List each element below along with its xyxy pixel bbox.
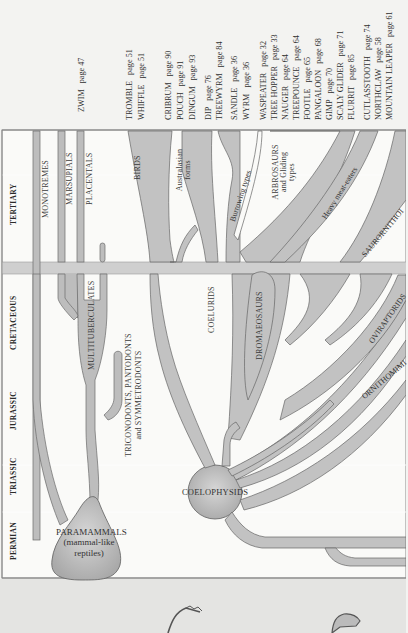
species-ref-gimp[interactable]: GIMPpage 70 (326, 68, 334, 120)
species-name: TREEPOUNCE (292, 67, 301, 120)
species-page: page 74 (363, 24, 372, 50)
species-name: SANDLE (230, 88, 239, 120)
species-name: FLURRIT (347, 86, 356, 120)
species-page: page 36 (242, 62, 251, 88)
species-ref-footle[interactable]: FOOTLEpage 65 (304, 57, 312, 120)
species-ref-dip[interactable]: DIPpage 76 (205, 75, 213, 120)
label-dromaeosaurs: DROMAEOSAURS (256, 291, 264, 360)
species-ref-tree-hopper[interactable]: TREE HOPPERpage 33 (271, 34, 279, 120)
label-triconodonts: TRICONODONTS, PANTODONTS and SYMMETRODON… (125, 330, 143, 460)
species-name: POUCH (176, 92, 185, 120)
species-page: page 64 (292, 35, 301, 61)
species-page: page 36 (230, 56, 239, 82)
label-triconodonts-line1: TRICONODONTS, PANTODONTS (125, 330, 133, 460)
species-ref-tromble[interactable]: TROMBLEpage 51 (126, 49, 134, 120)
label-placentals: PLACENTALS (86, 153, 94, 205)
species-page: page 93 (188, 55, 197, 81)
species-ref-flurrit[interactable]: FLURRITpage 85 (348, 54, 356, 120)
label-coelophysids: COELOPHYSIDS (182, 487, 248, 497)
species-page: page 51 (137, 53, 146, 79)
label-coelurids: COELURIDS (208, 286, 216, 333)
species-ref-wyrm[interactable]: WYRMpage 36 (243, 62, 251, 120)
species-ref-sandle[interactable]: SANDLEpage 36 (231, 56, 239, 120)
species-name: GIMP (325, 100, 334, 120)
species-ref-dingum[interactable]: DINGUMpage 93 (189, 55, 197, 120)
species-ref-treepounce[interactable]: TREEPOUNCEpage 64 (293, 35, 301, 120)
species-ref-pouch[interactable]: POUCHpage 91 (177, 61, 185, 120)
species-page: page 32 (259, 41, 268, 67)
species-ref-northclaw[interactable]: NORTHCLAWpage 58 (375, 37, 383, 120)
species-page: page 58 (374, 37, 383, 63)
species-ref-mountain-leaper[interactable]: MOUNTAIN LEAPERpage 61 (386, 11, 394, 120)
species-page: page 68 (314, 38, 323, 64)
species-ref-waspeater[interactable]: WASPEATERpage 32 (260, 41, 268, 120)
species-name: TREE HOPPER (270, 66, 279, 120)
species-page: page 61 (385, 11, 394, 37)
species-name: CRIBRUM (164, 82, 173, 120)
species-name: FOOTLE (303, 89, 312, 120)
species-page: page 47 (77, 58, 86, 84)
species-ref-scaly-glider[interactable]: SCALY GLIDERpage 71 (337, 31, 345, 120)
species-page: page 91 (176, 61, 185, 87)
species-page: page 33 (270, 34, 279, 60)
label-australasian: Australasian forms (176, 140, 192, 200)
period-label-jurassic: JURASSIC (10, 391, 18, 430)
species-page: page 76 (204, 75, 213, 101)
species-name: TREEWYRM (215, 73, 224, 120)
species-ref-nauger[interactable]: NAUGERpage 64 (282, 54, 290, 120)
species-page: page 71 (336, 31, 345, 57)
species-name: NORTHCLAW (374, 69, 383, 120)
label-paramammals-line2: (mammal-like (56, 537, 122, 547)
species-page: page 65 (303, 57, 312, 83)
species-page: page 51 (125, 49, 134, 75)
species-name: MOUNTAIN LEAPER (385, 43, 394, 120)
marsupial-branch (58, 131, 65, 262)
period-label-permian: PERMIAN (10, 522, 18, 560)
species-ref-pangaloon[interactable]: PANGALOONpage 68 (315, 38, 323, 120)
label-birds: BIRDS (134, 155, 142, 180)
label-paramammals-line1: PARAMAMMALS (56, 527, 122, 537)
species-page: page 85 (347, 54, 356, 80)
species-page: page 70 (325, 68, 334, 94)
species-ref-cutlasstooth[interactable]: CUTLASSTOOTHpage 74 (364, 24, 372, 120)
period-label-cretaceous: CRETACEOUS (10, 295, 18, 350)
species-page: page 84 (215, 41, 224, 67)
species-ref-zwim[interactable]: ZWIMpage 47 (78, 58, 86, 112)
species-page: page 64 (281, 54, 290, 80)
species-name: ZWIM (77, 89, 86, 112)
label-monotremes: MONOTREMES (42, 160, 50, 218)
label-multituberculates: MULTITUBERCULATES (88, 281, 96, 370)
label-triconodonts-line2: and SYMMETRODONTS (135, 330, 143, 460)
label-paramammals-line3: reptiles) (56, 548, 122, 558)
species-name: PANGALOON (314, 70, 323, 120)
period-separator-cretaceous (2, 262, 406, 274)
species-name: DINGUM (188, 86, 197, 120)
label-arbrosaurs-line3: types (288, 132, 296, 212)
period-label-triassic: TRIASSIC (10, 457, 18, 495)
period-label-tertiary: TERTIARY (10, 184, 18, 225)
species-name: WHIFFLE (137, 85, 146, 120)
species-name: WYRM (242, 94, 251, 120)
species-name: CUTLASSTOOTH (363, 56, 372, 120)
species-name: WASPEATER (259, 73, 268, 120)
placental-branch (77, 131, 84, 262)
placental-stub (100, 243, 105, 262)
species-page: page 90 (164, 51, 173, 77)
species-ref-whiffle[interactable]: WHIFFLEpage 51 (138, 53, 146, 120)
species-ref-cribrum[interactable]: CRIBRUMpage 90 (165, 51, 173, 120)
label-marsupials: MARSUPIALS (66, 152, 74, 205)
species-name: DIP (204, 107, 213, 120)
label-australasian-line2: forms (184, 140, 192, 200)
label-paramammals: PARAMAMMALS (mammal-like reptiles) (56, 527, 122, 558)
species-name: NAUGER (281, 86, 290, 120)
label-arbrosaurs: ARBROSAURS and Gliding types (272, 132, 296, 212)
species-name: TROMBLE (125, 81, 134, 120)
species-name: SCALY GLIDER (336, 62, 345, 120)
species-ref-treewyrm[interactable]: TREEWYRMpage 84 (216, 41, 224, 120)
